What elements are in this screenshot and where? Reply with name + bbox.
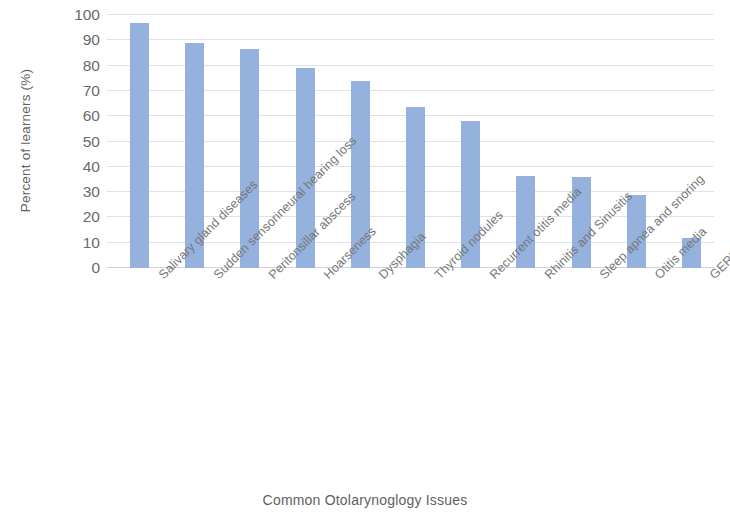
x-tick-label: Salivary gland diseases — [156, 272, 166, 282]
y-tick-label: 100 — [74, 7, 100, 22]
y-tick-label: 50 — [83, 134, 100, 149]
x-axis-tick-labels: Salivary gland diseasesSudden sensorineu… — [107, 272, 714, 442]
x-tick-label: Thyroid nodules — [432, 272, 442, 282]
y-axis-title-text: Percent of learners (%) — [19, 68, 34, 211]
y-tick-label: 60 — [83, 108, 100, 123]
y-tick-label: 10 — [83, 235, 100, 250]
x-tick-label: Rhinitis and Sinusitis — [542, 272, 552, 282]
x-tick-label: Peritonsillar abscess — [266, 272, 276, 282]
x-tick-label: GERD — [707, 272, 717, 282]
gridline-100 — [107, 14, 714, 15]
y-tick-label: 70 — [83, 83, 100, 98]
y-axis-title: Percent of learners (%) — [6, 0, 46, 280]
x-tick-label: Hoarseness — [321, 272, 331, 282]
bar-chart-figure: Percent of learners (%) 1009080706050403… — [0, 0, 730, 523]
y-tick-label: 20 — [83, 209, 100, 224]
y-tick-label: 90 — [83, 32, 100, 47]
x-axis-title: Common Otolarynoglogy Issues — [0, 492, 730, 508]
x-tick-label: Otitis media — [652, 272, 662, 282]
gridline-90 — [107, 39, 714, 40]
bar[interactable] — [130, 23, 149, 268]
y-axis-tick-labels: 1009080706050403020100 — [52, 0, 100, 283]
x-tick-label: Sleep apnea and snoring — [597, 272, 607, 282]
y-tick-label: 0 — [91, 260, 100, 275]
x-tick-label: Sudden sensorineural hearing loss — [211, 272, 221, 282]
y-tick-label: 40 — [83, 159, 100, 174]
x-tick-label: Recurrent otitis media — [487, 272, 497, 282]
y-tick-label: 30 — [83, 184, 100, 199]
x-tick-label: Dysphagia — [376, 272, 386, 282]
y-tick-label: 80 — [83, 58, 100, 73]
